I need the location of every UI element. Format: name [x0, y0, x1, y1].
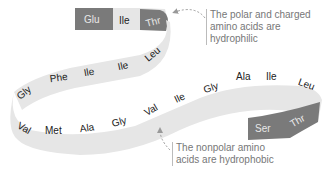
residue-label: Ile [119, 15, 130, 26]
residue-label: Gly [110, 114, 127, 129]
residue-label: Ala [236, 71, 251, 82]
callout-line: amino acids are [210, 21, 311, 33]
callout-line: The polar and charged [210, 9, 311, 21]
nonpolar-callout: The nonpolar amino acids are hydrophobic [172, 142, 274, 166]
residue-label: Ile [172, 90, 187, 105]
callout-line: hydrophilic [210, 33, 311, 45]
callout-line: The nonpolar amino [176, 142, 274, 154]
polar-callout: The polar and charged amino acids are hy… [206, 9, 311, 45]
residue-label: Ala [79, 121, 95, 134]
polar-callout-arrow [175, 10, 205, 18]
callout-line: acids are hydrophobic [176, 154, 274, 166]
residue-label: Met [45, 125, 62, 136]
residue-label: Glu [84, 14, 100, 25]
residue-label: Ser [255, 123, 271, 134]
residue-label: Val [142, 102, 159, 118]
residue-label: Ile [266, 71, 277, 82]
